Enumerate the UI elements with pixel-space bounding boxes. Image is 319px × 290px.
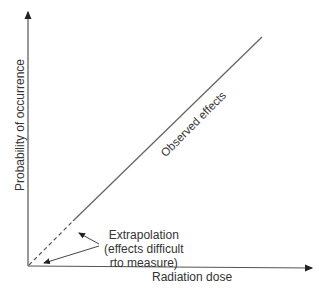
y-axis-label: Probability of occurrence <box>13 55 27 195</box>
arrow-to-origin <box>44 246 99 263</box>
arrow-to-dashed <box>79 233 99 244</box>
diagram: Probability of occurrence Radiation dose… <box>0 0 319 290</box>
extrapolation-line <box>29 221 73 265</box>
extrap-line-2: (effects difficult <box>104 242 184 256</box>
extrapolation-annotation: Extrapolation (effects difficult rto mea… <box>104 228 184 270</box>
extrap-line-1: Extrapolation <box>104 228 184 242</box>
extrap-line-3: rto measure) <box>104 256 184 270</box>
x-axis-label: Radiation dose <box>152 270 232 284</box>
observed-line <box>73 37 262 221</box>
